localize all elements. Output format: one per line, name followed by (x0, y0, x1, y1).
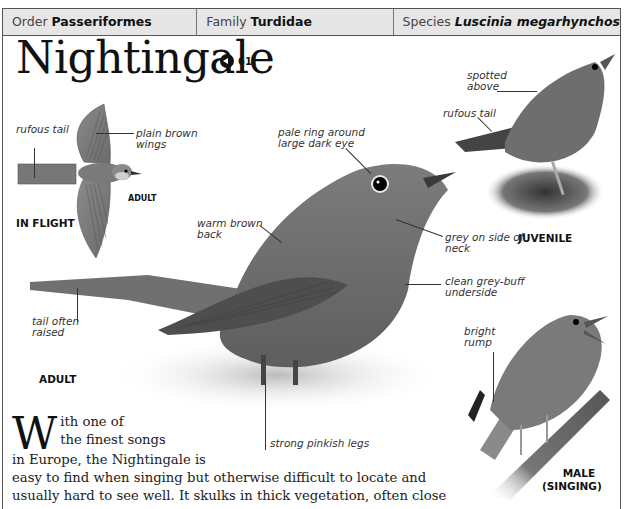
note-text: rufous tail (443, 107, 496, 119)
leader-line (77, 288, 78, 322)
flight-note-rufous-tail: rufous tail (16, 124, 69, 135)
species-description: W ith one of the finest songs in Europe,… (12, 413, 452, 505)
leader-line (493, 352, 494, 402)
note-text: plain brown wings (136, 127, 198, 150)
body-line: in Europe, the Nightingale is (12, 451, 452, 469)
speaker-icon[interactable] (220, 54, 234, 68)
note-text: pale ring around large dark eye (278, 126, 365, 149)
juvenile-note-tail: rufous tail (443, 108, 503, 119)
body-line: ith one of (12, 413, 452, 431)
family-value: Turdidae (251, 14, 312, 29)
leader-line (497, 91, 537, 92)
family-label: Family (206, 14, 246, 29)
species-label: Species (403, 14, 451, 29)
male-caption-line2: (SINGING) (542, 480, 602, 493)
note-text: clean grey-buff underside (445, 275, 525, 298)
juvenile-note-spotted: spotted above (467, 70, 527, 92)
body-line: usually hard to see well. It skulks in t… (12, 487, 452, 505)
note-text: bright rump (464, 325, 495, 348)
adult-note-tail: tail often raised (32, 316, 92, 338)
order-label: Order (12, 14, 48, 29)
male-caption: MALE (SINGING) (556, 467, 602, 493)
adult-bird-illustration (28, 150, 458, 410)
drop-cap: W (12, 417, 57, 451)
note-text: tail often raised (32, 315, 79, 338)
body-line: easy to find when singing but otherwise … (12, 469, 452, 487)
male-note-rump: bright rump (464, 326, 514, 348)
note-text: grey on side of neck (445, 231, 523, 254)
species-cell: Species Luscinia megarhynchos (394, 9, 620, 35)
juvenile-caption: JUVENILE (518, 232, 572, 245)
order-value: Passeriformes (52, 14, 152, 29)
adult-note-neck: grey on side of neck (445, 232, 525, 254)
leader-line (405, 284, 441, 285)
flight-note-wings: plain brown wings (136, 128, 206, 150)
sound-track-number: 61 (238, 56, 252, 67)
body-line: the finest songs (12, 431, 452, 449)
adult-note-underside: clean grey-buff underside (445, 276, 545, 298)
note-text: spotted above (467, 69, 507, 92)
male-caption-line1: MALE (556, 467, 602, 480)
sound-reference[interactable]: 61 (220, 54, 252, 68)
leader-line (96, 133, 134, 134)
species-value: Luscinia megarhynchos (455, 14, 620, 29)
note-text: warm brown back (197, 217, 263, 240)
note-text: rufous tail (16, 123, 69, 135)
adult-caption: ADULT (39, 373, 76, 386)
adult-note-eye: pale ring around large dark eye (278, 127, 388, 149)
